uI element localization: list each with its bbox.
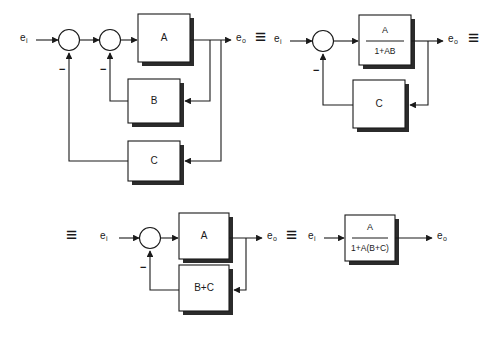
diagram-4-block-denominator: 1+A(B+C)	[343, 244, 397, 253]
equivalence-symbol-3: ≡	[66, 225, 77, 244]
diagram-3-block-a-label: A	[179, 231, 229, 241]
diagram-1-output-label: eo	[236, 33, 245, 43]
diagram-2-block-numerator: A	[359, 26, 411, 35]
wire-tap-to-bc	[234, 238, 246, 290]
summing-junction-outer	[59, 30, 80, 51]
diagram-1-minus-inner: −	[100, 64, 106, 75]
wire-bc-to-j	[150, 251, 179, 290]
summing-junction-inner	[100, 30, 121, 51]
diagram-2-block-denominator: 1+AB	[359, 47, 411, 56]
summing-junction	[140, 228, 161, 249]
diagram-1-block-c-label: C	[128, 156, 180, 166]
summing-junction-outer	[313, 31, 334, 52]
diagram-1-block-a-label: A	[138, 33, 190, 43]
diagram-2-block-c-label: C	[353, 99, 405, 109]
diagram-1-minus-outer: −	[59, 64, 65, 75]
diagram-4-input-label: ei	[308, 231, 315, 241]
diagram-3-output-label: eo	[267, 231, 276, 241]
diagram-1-block-b-label: B	[128, 96, 180, 106]
diagram-4-block-numerator: A	[345, 223, 395, 232]
block-diagram-canvas	[0, 0, 503, 348]
diagram-3-block-bc-label: B+C	[179, 283, 229, 293]
diagram-4-output-label: eo	[437, 231, 446, 241]
equivalence-symbol-4: ≡	[286, 225, 297, 244]
diagram-3-minus: −	[140, 262, 146, 273]
equivalence-symbol-2: ≡	[468, 28, 479, 47]
diagram-2-minus: −	[313, 65, 319, 76]
wire-c-to-j1	[69, 53, 128, 161]
diagram-2-output-label: eo	[448, 34, 457, 44]
diagram-1-input-label: ei	[20, 33, 27, 43]
wire-c-to-j	[323, 54, 353, 105]
block-a-over-1-plus-ab-body	[359, 15, 411, 65]
diagram-3-input-label: ei	[100, 231, 107, 241]
diagram-2-input-label: ei	[274, 34, 281, 44]
equivalence-symbol-1: ≡	[255, 27, 266, 46]
wire-b-to-j2	[110, 53, 128, 101]
